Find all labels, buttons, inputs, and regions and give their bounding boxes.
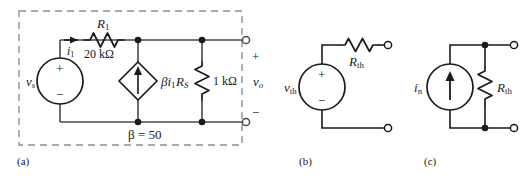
node-dot <box>199 37 206 44</box>
terminal-b-negative <box>384 124 391 131</box>
vth-minus-sign: − <box>318 94 325 107</box>
output-terminal-positive <box>242 36 249 43</box>
resistor-rth-b <box>341 39 378 52</box>
source-minus-sign: − <box>56 88 63 101</box>
resistor-rth-c <box>478 67 492 105</box>
source-plus-sign: + <box>56 62 63 75</box>
label-output-vo: vo <box>253 75 263 90</box>
wire-c-bottom <box>450 110 510 128</box>
resistor-rs <box>195 62 209 100</box>
wire-b-bottom <box>322 110 384 128</box>
label-resistor-rs-value: 1 kΩ <box>213 75 237 87</box>
label-resistor-rth-c: Rth <box>497 81 512 96</box>
label-dependent-source-beta-i1: βi1 <box>161 75 176 90</box>
wire-b-top <box>322 45 341 64</box>
label-source-in: in <box>414 81 422 96</box>
node-dot <box>482 125 489 132</box>
label-resistor-rth-b: Rth <box>349 55 364 70</box>
dependent-current-source-diamond <box>119 62 157 100</box>
vth-plus-sign: + <box>318 68 325 81</box>
label-current-i1: i1 <box>67 45 74 59</box>
label-resistor-r1-value: 20 kΩ <box>84 48 114 60</box>
label-resistor-rs: RS <box>176 75 188 90</box>
current-arrow-i1 <box>64 37 78 44</box>
label-source-vth: vth <box>284 81 297 96</box>
caption-panel-c: (c) <box>424 156 436 167</box>
node-dot <box>482 42 489 49</box>
circuit-figure: vs + − i1 R1 20 kΩ βi1 RS 1 kΩ β = 50 vo… <box>0 0 531 180</box>
caption-panel-b: (b) <box>299 156 312 167</box>
node-dot <box>135 119 142 126</box>
node-dot <box>135 37 142 44</box>
label-source-vs: vs <box>26 75 35 90</box>
label-beta-value: β = 50 <box>128 128 161 141</box>
wire-c-top <box>450 45 510 64</box>
terminal-c-negative <box>510 124 517 131</box>
circuit-schematic-svg <box>0 0 531 180</box>
output-plus-sign: + <box>252 50 259 63</box>
terminal-c-positive <box>510 41 517 48</box>
output-terminal-negative <box>242 118 249 125</box>
current-source-in <box>427 64 473 110</box>
caption-panel-a: (a) <box>17 156 29 167</box>
output-minus-sign: − <box>252 106 259 119</box>
label-resistor-r1: R1 <box>97 17 109 32</box>
resistor-r1 <box>84 33 124 47</box>
terminal-b-positive <box>384 41 391 48</box>
node-dot <box>199 119 206 126</box>
